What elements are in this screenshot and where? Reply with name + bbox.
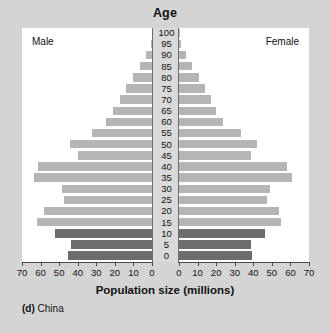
x-tick-female <box>235 262 236 266</box>
age-tick-label: 25 <box>153 195 180 205</box>
x-tick-male <box>59 262 60 266</box>
bar-row <box>22 173 152 184</box>
female-bar <box>179 40 181 48</box>
bar-row <box>179 185 309 196</box>
male-bar <box>71 240 152 248</box>
female-bar <box>179 140 257 148</box>
male-bar <box>106 118 152 126</box>
male-bar <box>140 62 152 70</box>
bar-row <box>179 107 309 118</box>
bar-row <box>22 62 152 73</box>
bar-row <box>179 51 309 62</box>
bar-row <box>179 62 309 73</box>
age-tick-label: 50 <box>153 140 180 150</box>
bar-row <box>22 84 152 95</box>
female-bar <box>179 151 251 159</box>
male-bar <box>64 196 152 204</box>
x-tick-male <box>78 262 79 266</box>
bar-row <box>179 207 309 218</box>
bar-row <box>22 185 152 196</box>
x-tick-male <box>152 262 153 266</box>
male-bar <box>92 129 152 137</box>
female-bar <box>179 73 199 81</box>
bar-row <box>179 29 309 40</box>
x-tick-label-female: 70 <box>298 267 320 278</box>
female-bar <box>179 251 252 259</box>
x-tick-male <box>115 262 116 266</box>
female-bar <box>179 229 265 237</box>
female-bar <box>179 240 251 248</box>
female-bar <box>179 185 270 193</box>
bar-row <box>179 151 309 162</box>
female-bar <box>179 173 292 181</box>
age-tick-label: 10 <box>153 229 180 239</box>
female-bar <box>179 107 216 115</box>
x-tick-male <box>133 262 134 266</box>
bar-row <box>179 73 309 84</box>
x-tick-male <box>41 262 42 266</box>
x-tick-female <box>272 262 273 266</box>
bar-row <box>22 162 152 173</box>
x-tick-female <box>290 262 291 266</box>
age-axis: 1009590858075706560555045403530252015105… <box>152 28 179 262</box>
male-bar <box>44 207 152 215</box>
x-tick-label-male: 70 <box>11 267 33 278</box>
female-bar <box>179 84 205 92</box>
bar-row <box>22 107 152 118</box>
bar-row <box>22 251 152 262</box>
age-tick-label: 0 <box>153 251 180 261</box>
female-bar <box>179 95 211 103</box>
bar-row <box>22 73 152 84</box>
female-bar <box>179 162 287 170</box>
female-bar <box>179 29 180 37</box>
age-tick-label: 20 <box>153 206 180 216</box>
figure-caption: (d) China <box>22 303 64 314</box>
bar-row <box>179 251 309 262</box>
bar-row <box>22 51 152 62</box>
female-bar <box>179 218 281 226</box>
x-axis-title: Population size (millions) <box>0 284 330 296</box>
bar-row <box>179 218 309 229</box>
x-tick-female <box>253 262 254 266</box>
age-tick-label: 100 <box>153 28 180 38</box>
male-panel: Male <box>22 28 152 262</box>
female-bar <box>179 62 192 70</box>
male-bar <box>62 185 152 193</box>
age-tick-label: 90 <box>153 50 180 60</box>
bar-row <box>179 40 309 51</box>
age-tick-label: 75 <box>153 84 180 94</box>
bar-row <box>22 40 152 51</box>
age-tick-label: 70 <box>153 95 180 105</box>
caption-text: China <box>38 303 64 314</box>
bar-row <box>22 95 152 106</box>
age-tick-label: 55 <box>153 128 180 138</box>
age-tick-label: 85 <box>153 62 180 72</box>
caption-prefix: (d) <box>22 303 35 314</box>
male-bar <box>113 107 152 115</box>
bar-row <box>179 162 309 173</box>
bar-row <box>179 95 309 106</box>
x-tick-female <box>179 262 180 266</box>
bar-row <box>179 196 309 207</box>
bar-row <box>22 229 152 240</box>
age-tick-label: 95 <box>153 39 180 49</box>
bar-row <box>179 173 309 184</box>
bar-row <box>179 118 309 129</box>
female-bar <box>179 129 241 137</box>
female-panel: Female <box>179 28 309 262</box>
x-tick-female <box>309 262 310 266</box>
x-tick-female <box>198 262 199 266</box>
x-tick-male <box>22 262 23 266</box>
bar-row <box>22 151 152 162</box>
male-bar <box>37 218 152 226</box>
age-tick-label: 30 <box>153 184 180 194</box>
bar-row <box>22 207 152 218</box>
female-bar <box>179 51 186 59</box>
male-bar <box>120 95 153 103</box>
age-tick-label: 15 <box>153 218 180 228</box>
male-bar <box>55 229 153 237</box>
bar-row <box>179 84 309 95</box>
bar-row <box>179 240 309 251</box>
age-tick-label: 5 <box>153 240 180 250</box>
male-bar <box>70 140 152 148</box>
